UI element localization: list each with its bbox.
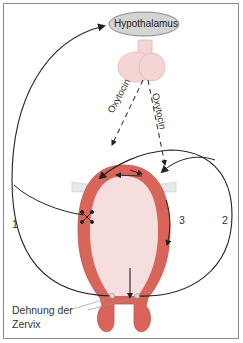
- pathway-label-3: 3: [179, 215, 185, 226]
- pituitary-gland-icon: [118, 40, 165, 82]
- pathway-label-2: 2: [222, 215, 228, 226]
- oxytocin-reflex-diagram: [0, 0, 243, 343]
- hypothalamus-label: Hypothalamus: [114, 19, 178, 29]
- pathway-label-1: 1: [12, 219, 18, 230]
- cervix-annotation-line2: Zervix: [12, 319, 41, 330]
- cervix-annotation-line1: Dehnung der: [12, 305, 73, 316]
- uterus-cavity: [90, 176, 158, 296]
